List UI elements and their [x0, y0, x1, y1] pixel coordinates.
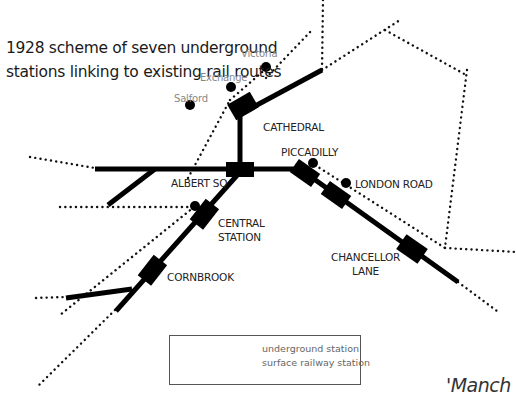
- station-block-albert-sq[interactable]: [226, 162, 254, 177]
- label-cathedral: CATHEDRAL: [263, 120, 324, 134]
- legend: underground station surface railway stat…: [169, 335, 361, 385]
- label-cornbrook: CORNBROOK: [167, 270, 234, 284]
- label-chancellor-line-1: CHANCELLOR: [331, 250, 400, 264]
- station-block-cathedral[interactable]: [227, 92, 259, 121]
- label-chancellor-lane: CHANCELLOR LANE: [331, 250, 400, 278]
- legend-underground-label: underground station: [262, 343, 359, 354]
- label-piccadilly: PICCADILLY: [281, 145, 338, 159]
- legend-surface-label: surface railway station: [262, 357, 370, 368]
- label-albert-sq: ALBERT SQ: [171, 176, 227, 190]
- station-dot-piccadilly[interactable]: [308, 158, 318, 168]
- label-exchange: Exchange: [200, 71, 247, 85]
- station-dot-central[interactable]: [190, 201, 200, 211]
- label-london-road: LONDON ROAD: [355, 177, 433, 191]
- label-chancellor-line-2: LANE: [331, 264, 400, 278]
- label-central-line-1: CENTRAL: [218, 216, 265, 230]
- caption-text: 'Manch: [446, 374, 511, 396]
- station-dot-london-road[interactable]: [341, 178, 351, 188]
- label-salford: Salford: [174, 92, 208, 106]
- label-victoria: Victoria: [241, 47, 277, 61]
- label-central-station: CENTRAL STATION: [218, 216, 265, 244]
- label-central-line-2: STATION: [218, 230, 265, 244]
